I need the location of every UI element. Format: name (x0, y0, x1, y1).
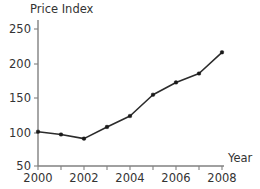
data-point-2003 (105, 125, 108, 128)
x-tick-label-2006: 2006 (161, 171, 190, 185)
x-axis-title: Year (227, 151, 253, 165)
data-point-2004 (128, 114, 131, 117)
y-tick-label-250: 250 (9, 22, 31, 36)
x-tick-label-2004: 2004 (115, 171, 144, 185)
price-index-markers (36, 51, 223, 141)
price-index-line-chart: Price Index Year 250 200 150 100 50 2000… (0, 0, 260, 189)
data-point-2008 (220, 51, 223, 54)
data-point-2002 (82, 137, 85, 140)
x-tick-label-2000: 2000 (23, 171, 52, 185)
data-point-2007 (197, 72, 200, 75)
price-index-line (38, 52, 222, 138)
x-tick-label-2002: 2002 (69, 171, 98, 185)
y-axis-title: Price Index (30, 2, 94, 16)
chart-canvas: Price Index Year 250 200 150 100 50 2000… (0, 0, 260, 189)
y-tick-label-200: 200 (9, 57, 31, 71)
data-point-2001 (59, 133, 62, 136)
y-tick-label-100: 100 (9, 126, 31, 140)
x-tick-label-2008: 2008 (207, 171, 236, 185)
data-point-2006 (174, 81, 177, 84)
y-tick-label-150: 150 (9, 91, 31, 105)
data-point-2000 (36, 130, 39, 133)
data-point-2005 (151, 93, 154, 96)
